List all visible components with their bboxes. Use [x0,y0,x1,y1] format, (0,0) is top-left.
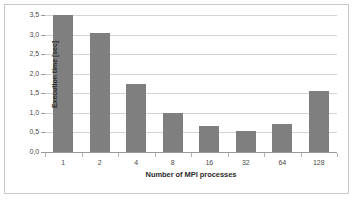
x-tick-mark [155,153,156,157]
x-tick-label: 1 [43,158,83,167]
x-tick-mark [264,153,265,157]
bar [90,33,110,152]
x-tick-label: 16 [189,158,229,167]
x-tick-mark [82,153,83,157]
y-tick-mark [41,35,45,36]
y-tick-mark [41,152,45,153]
chart-figure: 0,00,51,01,52,02,53,03,5 Execution time … [0,0,355,200]
x-axis-title: Number of MPI processes [45,170,337,179]
x-tick-mark [118,153,119,157]
gridline [45,15,337,16]
bar [163,113,183,152]
y-tick-label: 2,5 [15,50,39,58]
x-tick-label: 2 [80,158,120,167]
y-tick-mark [41,54,45,55]
y-tick-mark [41,15,45,16]
bar [126,84,146,152]
bar [272,124,292,152]
y-tick-label: 3,0 [15,31,39,39]
x-tick-mark [228,153,229,157]
y-tick-label: 0,5 [15,128,39,136]
bar [199,126,219,152]
x-tick-label: 8 [153,158,193,167]
y-tick-mark [41,113,45,114]
y-tick-label: 2,0 [15,70,39,78]
y-tick-mark [41,74,45,75]
x-tick-label: 128 [299,158,339,167]
x-tick-mark [45,153,46,157]
y-axis-title: Execution time [sec] [51,25,58,125]
bar [309,91,329,152]
y-tick-label: 0,0 [15,148,39,156]
x-tick-label: 32 [226,158,266,167]
plot-area: Execution time [sec] [45,15,337,152]
x-tick-label: 64 [262,158,302,167]
y-tick-label: 1,0 [15,109,39,117]
y-axis-tick-labels: 0,00,51,01,52,02,53,03,5 [13,0,39,200]
y-tick-label: 1,5 [15,89,39,97]
y-tick-mark [41,132,45,133]
bar [236,131,256,152]
y-tick-label: 3,5 [15,11,39,19]
x-tick-label: 4 [116,158,156,167]
x-tick-mark [301,153,302,157]
x-tick-mark [337,153,338,157]
x-tick-mark [191,153,192,157]
y-tick-mark [41,93,45,94]
